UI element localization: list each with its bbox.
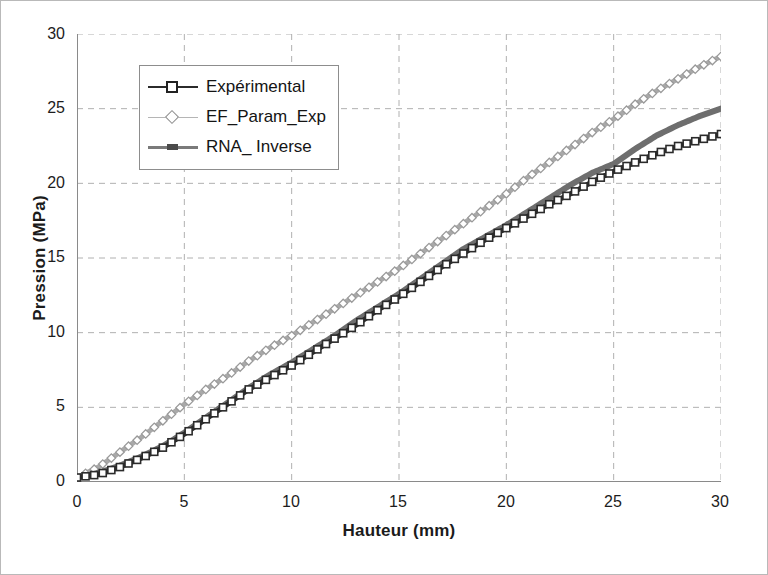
x-tick-label: 25 bbox=[593, 493, 633, 511]
legend-item-ef-param-exp: EF_Param_Exp bbox=[148, 102, 326, 132]
legend-key-open-square-icon bbox=[148, 80, 198, 94]
legend-key-line-icon bbox=[148, 140, 198, 154]
chart-figure: Pression (MPa) 30 25 20 15 10 5 0 0 5 10… bbox=[0, 0, 768, 575]
x-tick-label: 5 bbox=[164, 493, 204, 511]
y-tick-label: 10 bbox=[19, 323, 65, 341]
x-axis-title: Hauteur (mm) bbox=[77, 519, 721, 543]
y-tick-label: 20 bbox=[19, 174, 65, 192]
x-tick-label: 10 bbox=[271, 493, 311, 511]
y-tick-label: 30 bbox=[19, 25, 65, 43]
y-tick-label: 15 bbox=[19, 248, 65, 266]
y-tick-label: 25 bbox=[19, 99, 65, 117]
y-tick-label: 5 bbox=[19, 397, 65, 415]
legend-key-open-diamond-icon bbox=[148, 110, 198, 124]
legend-item-rna-inverse: RNA_ Inverse bbox=[148, 132, 326, 162]
y-tick-label: 0 bbox=[19, 472, 65, 490]
legend-item-experimental: Expérimental bbox=[148, 72, 326, 102]
chart-legend: Expérimental EF_Param_Exp RNA_ Inverse bbox=[139, 65, 339, 170]
x-tick-label: 0 bbox=[57, 493, 97, 511]
legend-label: Expérimental bbox=[198, 77, 305, 97]
legend-label: RNA_ Inverse bbox=[198, 137, 312, 157]
legend-label: EF_Param_Exp bbox=[198, 107, 326, 127]
x-tick-label: 30 bbox=[700, 493, 740, 511]
x-tick-label: 15 bbox=[378, 493, 418, 511]
x-tick-label: 20 bbox=[486, 493, 526, 511]
